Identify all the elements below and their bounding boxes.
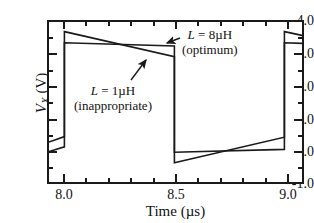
y-tick-right-minor <box>298 102 303 104</box>
x-tick-minor <box>153 178 155 183</box>
x-tick-top-major <box>175 21 177 29</box>
annotation-optimum-line2: (optimum) <box>182 42 238 57</box>
y-tick-minor <box>48 102 53 104</box>
x-tick-minor <box>197 178 199 183</box>
x-tick-top-minor <box>85 21 87 26</box>
annotation-inappropriate: L = 1µH (inappropriate) <box>74 83 152 113</box>
y-tick-minor <box>48 135 53 137</box>
annotation-inappropriate-line1: L = 1µH <box>74 83 152 98</box>
y-tick-major <box>48 119 57 121</box>
annotation-optimum-var: L <box>188 27 195 42</box>
x-axis-title: Time (µs) <box>47 203 304 220</box>
x-tick-top-minor <box>153 21 155 26</box>
y-tick-major <box>48 53 57 55</box>
y-tick-right-minor <box>298 135 303 137</box>
x-tick-major <box>175 174 177 183</box>
y-tick-minor <box>48 167 53 169</box>
x-tick-top-major <box>63 21 65 29</box>
x-tick-minor <box>85 178 87 183</box>
x-tick-top-minor <box>242 21 244 26</box>
x-tick-top-major <box>287 21 289 29</box>
y-tick-major <box>48 86 57 88</box>
y-tick-right-major <box>294 86 303 88</box>
x-tick-top-minor <box>197 21 199 26</box>
annotation-inappropriate-line2: (inappropriate) <box>74 98 152 113</box>
annotation-inappropriate-rest: = 1µH <box>98 83 135 98</box>
x-tick-major <box>63 174 65 183</box>
x-tick-top-minor <box>108 21 110 26</box>
x-tick-minor <box>265 178 267 183</box>
x-tick-major <box>287 174 289 183</box>
y-tick-right-minor <box>298 37 303 39</box>
y-tick-right-major <box>294 53 303 55</box>
x-tick-top-minor <box>220 21 222 26</box>
x-tick-label: 8.5 <box>151 188 201 202</box>
x-tick-top-minor <box>130 21 132 26</box>
x-tick-top-minor <box>265 21 267 26</box>
x-tick-minor <box>220 178 222 183</box>
y-tick-right-major <box>294 151 303 153</box>
annotation-optimum-rest: = 8µH <box>195 27 232 42</box>
annotation-inappropriate-var: L <box>91 83 98 98</box>
y-tick-right-major <box>294 119 303 121</box>
annotation-optimum-line1: L = 8µH <box>182 27 238 42</box>
x-tick-minor <box>242 178 244 183</box>
x-tick-minor <box>108 178 110 183</box>
figure: 4.0 3.0 2.0 1.0 0.0 -1.0 8.0 8.5 9.0 VX … <box>0 0 314 223</box>
y-tick-minor <box>48 37 53 39</box>
y-tick-minor <box>48 70 53 72</box>
annotation-optimum: L = 8µH (optimum) <box>182 27 238 57</box>
x-tick-minor <box>130 178 132 183</box>
x-tick-label: 9.0 <box>263 188 313 202</box>
x-tick-label: 8.0 <box>39 188 89 202</box>
y-tick-right-minor <box>298 70 303 72</box>
y-tick-major <box>48 151 57 153</box>
y-tick-right-minor <box>298 167 303 169</box>
